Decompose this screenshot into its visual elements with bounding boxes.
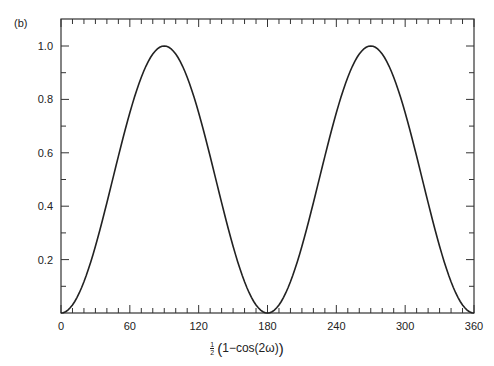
line-chart: 060120180240300360 0.20.40.60.81.0 <box>0 0 494 366</box>
panel-label: (b) <box>14 17 27 29</box>
x-tick-label: 0 <box>58 320 64 332</box>
y-tick-label: 1.0 <box>38 40 53 52</box>
x-axis-ticks <box>61 19 474 313</box>
fraction-half: 1 2 <box>210 341 214 356</box>
y-tick-labels: 0.20.40.60.81.0 <box>38 40 53 266</box>
x-tick-label: 360 <box>465 320 483 332</box>
x-tick-labels: 060120180240300360 <box>58 320 483 332</box>
y-axis-ticks <box>61 46 474 286</box>
x-tick-label: 120 <box>189 320 207 332</box>
y-tick-label: 0.4 <box>38 200 53 212</box>
data-line <box>61 46 474 313</box>
x-tick-label: 180 <box>258 320 276 332</box>
x-tick-label: 240 <box>327 320 345 332</box>
x-tick-label: 60 <box>124 320 136 332</box>
plot-frame <box>61 19 474 313</box>
y-tick-label: 0.6 <box>38 147 53 159</box>
x-tick-label: 300 <box>396 320 414 332</box>
y-tick-label: 0.8 <box>38 93 53 105</box>
y-tick-label: 0.2 <box>38 254 53 266</box>
x-axis-label: 1 2 (1−cos(2ω)) <box>0 340 494 357</box>
